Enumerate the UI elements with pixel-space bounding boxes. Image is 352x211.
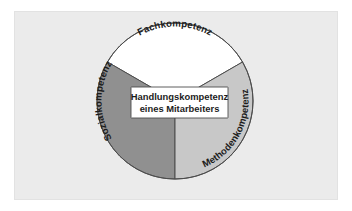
center-label-line1: Handlungskompetenz <box>131 91 229 102</box>
pie-diagram: Fachkompetenz Sozialkompetenz Methodenko… <box>0 0 352 211</box>
figure-root: Fachkompetenz Sozialkompetenz Methodenko… <box>0 0 352 211</box>
center-label-line2: eines Mitarbeiters <box>140 103 220 114</box>
